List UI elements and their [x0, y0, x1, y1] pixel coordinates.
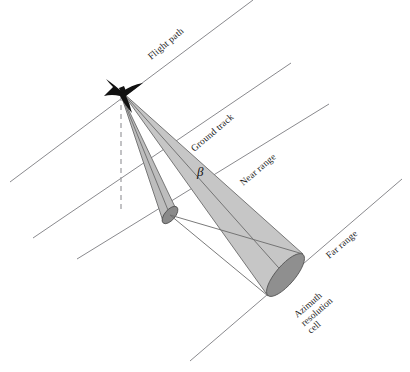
- diagram-canvas: [0, 0, 410, 372]
- beta-angle-label: β: [197, 164, 203, 180]
- near-beam-center-ridge: [120, 92, 170, 215]
- near-range-beam-cone: [120, 92, 176, 221]
- far-beam-center-ridge: [122, 92, 286, 276]
- sar-geometry-diagram: Flight path Ground track Near range Far …: [0, 0, 410, 372]
